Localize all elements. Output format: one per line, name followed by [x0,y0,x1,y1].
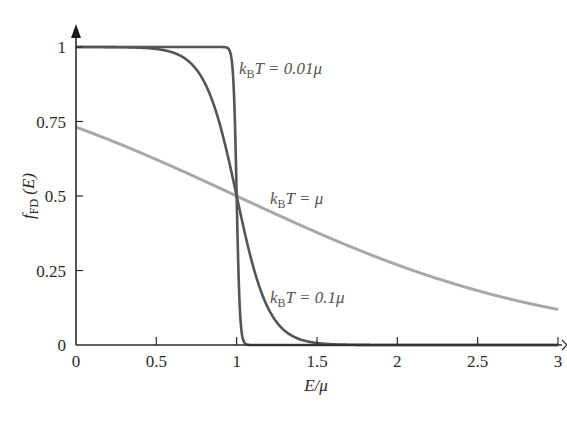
y-tick-label: 0.5 [45,187,66,206]
y-axis-title-sub: FD [27,199,41,215]
x-tick-label: 1 [232,352,241,371]
annotation-kT-0.1: kBT = 0.1μ [270,288,344,310]
x-axis-arrow-icon [562,340,567,350]
x-tick-label: 2.5 [467,352,488,371]
ann-rest: T = 0.1μ [286,288,345,307]
ann-b: B [278,296,286,310]
y-tick-label: 0 [58,336,67,355]
annotation-kT-1: kBT = μ [270,189,323,211]
x-tick-label: 0 [72,352,81,371]
y-tick-label: 0.75 [36,113,66,132]
x-tick-label: 2 [393,352,402,371]
x-axis-title: E/μ [303,376,328,395]
ann-rest: T = μ [286,189,324,208]
annotation-kT-0.01: kBT = 0.01μ [239,59,322,81]
x-tick-label: 1.5 [306,352,327,371]
ann-b: B [278,197,286,211]
curve-kT-1 [76,127,558,309]
y-tick-label: 0.25 [36,262,66,281]
y-tick-label: 1 [58,38,67,57]
y-axis-arrow-icon [71,24,81,38]
ann-b: B [247,67,255,81]
y-axis-title-arg: (E) [19,173,38,199]
x-ticks: 00.511.522.53 [72,337,563,371]
fermi-dirac-chart: 00.511.522.53 00.250.50.751 fFD (E) E/μ … [0,0,567,421]
x-tick-label: 0.5 [146,352,167,371]
x-tick-label: 3 [554,352,563,371]
y-axis-title: fFD (E) [19,173,41,219]
ann-rest: T = 0.01μ [255,59,322,78]
